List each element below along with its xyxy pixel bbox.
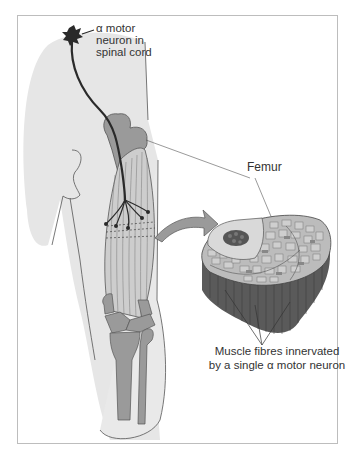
- femur-label: Femur: [247, 161, 282, 173]
- neuron-label-line3: spinal cord: [96, 46, 152, 58]
- leg-anatomy-illustration: [0, 0, 351, 457]
- fibres-label: Muscle fibres innervated by a single α m…: [202, 344, 351, 372]
- neuron-label-line1: α motor: [96, 22, 152, 34]
- thigh-cross-section: [202, 215, 331, 334]
- fibres-label-line2: by a single α motor neuron: [202, 358, 351, 372]
- neuron-label: α motor neuron in spinal cord: [96, 22, 152, 58]
- fibres-label-line1: Muscle fibres innervated: [202, 344, 351, 358]
- patella: [103, 294, 114, 314]
- neuron-label-line2: neuron in: [96, 34, 152, 46]
